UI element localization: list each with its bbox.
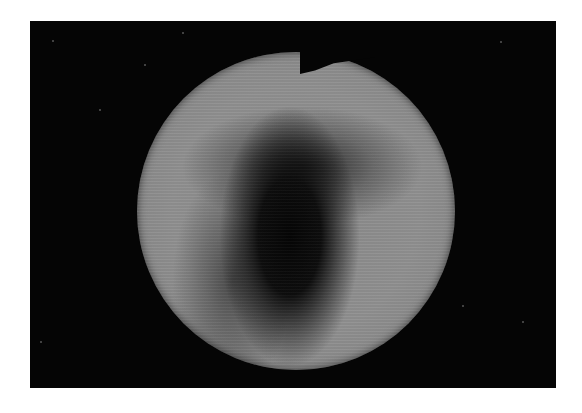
grayscale-disc bbox=[137, 52, 455, 370]
noise-speck bbox=[522, 321, 524, 323]
noise-speck bbox=[99, 109, 101, 111]
noise-speck bbox=[52, 40, 54, 42]
noise-speck bbox=[462, 305, 464, 307]
noise-speck bbox=[182, 32, 184, 34]
circular-field bbox=[137, 52, 455, 370]
noise-speck bbox=[40, 341, 42, 343]
noise-speck bbox=[500, 41, 502, 43]
image-frame bbox=[30, 21, 556, 388]
